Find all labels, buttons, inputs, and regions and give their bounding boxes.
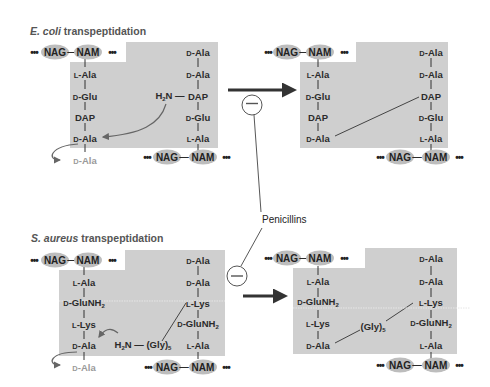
residue-name: -Ala — [191, 133, 209, 144]
dots: ••• — [264, 253, 272, 264]
gly-bridge: (Gly) — [361, 321, 383, 332]
residue-name: -Ala — [79, 133, 97, 144]
residue: D-Ala — [419, 276, 442, 287]
amine-h: H — [115, 339, 122, 350]
residue: L-Ala — [74, 69, 97, 80]
nag-label: NAG — [44, 47, 66, 58]
ecoli-inhibit-circle — [242, 95, 262, 115]
residue: DAP — [75, 112, 95, 123]
residue-name: -Ala — [78, 340, 96, 351]
nag-label: NAG — [389, 152, 411, 163]
nam-label: NAM — [425, 152, 448, 163]
dots: ••• — [222, 152, 230, 163]
residue: D-Ala — [186, 255, 209, 266]
nag-label: NAG — [44, 255, 66, 266]
nam-sugar: NAM — [422, 150, 450, 165]
residue-name: DAP — [421, 91, 441, 102]
residue: DAP — [308, 112, 328, 123]
dots: ••• — [455, 152, 463, 163]
amine-h: H — [155, 90, 162, 101]
residue-name: -Ala — [192, 255, 210, 266]
residue-name: -Ala — [192, 69, 210, 80]
residue-name: -Ala — [192, 47, 210, 58]
residue-name: -Ala — [77, 277, 95, 288]
saureus-after-crosslink-a — [335, 330, 360, 343]
saureus-amine-gly-group: H2N — (Gly)5 — [115, 339, 172, 351]
glycosidic-bond: — — [179, 361, 189, 372]
nag-sugar: NAG — [41, 253, 69, 268]
residue-name: -GluNH — [303, 296, 336, 307]
residue-name: -Lys — [191, 298, 210, 309]
residue-name: -Ala — [192, 277, 210, 288]
residue: D-GluNH2 — [297, 296, 338, 308]
residue: D-Ala — [186, 47, 209, 58]
nag-label: NAG — [156, 362, 178, 373]
residue-name: -Ala — [425, 276, 443, 287]
residue: DAP — [421, 91, 441, 102]
residue-name: -Lys — [424, 297, 443, 308]
residue-sub: 2 — [335, 302, 338, 308]
nag-sugar: NAG — [273, 45, 301, 60]
residue: L-Ala — [420, 340, 443, 351]
nam-label: NAM — [192, 362, 215, 373]
nag-label: NAG — [156, 152, 178, 163]
penicillins-label: Penicillins — [262, 214, 306, 225]
amine-n: N — [125, 339, 132, 350]
dots: ••• — [340, 253, 348, 264]
residue-name: -Glu — [311, 91, 330, 102]
residue: D-Ala — [72, 340, 95, 351]
residue-name: -Ala — [78, 362, 96, 373]
residue: L-Lys — [306, 318, 330, 329]
residue: L-Ala — [73, 277, 96, 288]
residue-sub: 2 — [215, 324, 218, 330]
residue: L-Lys — [419, 297, 443, 308]
nag-label: NAG — [389, 360, 411, 371]
residue-name: -Ala — [312, 340, 330, 351]
residue-name: -Glu — [424, 112, 443, 123]
ecoli-crosslink — [335, 97, 419, 136]
residue-name: -Glu — [78, 91, 97, 102]
dots: ••• — [455, 360, 463, 371]
dots: ••• — [340, 47, 348, 58]
residue: L-Lys — [186, 298, 210, 309]
residue: L-Ala — [187, 340, 210, 351]
residue: D-Ala — [186, 69, 209, 80]
residue: D-Glu — [419, 112, 443, 123]
residue-name: -GluNH — [69, 297, 102, 308]
leaving-residue: D-Ala — [73, 155, 96, 166]
residue-name: -Ala — [425, 69, 443, 80]
residue-name: DAP — [308, 112, 328, 123]
ecoli-amine-group: H2N — — [155, 90, 184, 102]
nam-label: NAM — [192, 152, 215, 163]
penicillin-line-top — [254, 115, 261, 212]
nam-sugar: NAM — [74, 253, 102, 268]
amine-bond: — — [134, 339, 144, 350]
nag-sugar: NAG — [386, 358, 414, 373]
residue-name: -Ala — [79, 155, 97, 166]
penicillin-line-bottom — [241, 228, 262, 266]
residue: D-Ala — [419, 69, 442, 80]
dots: ••• — [144, 362, 152, 373]
dots: ••• — [30, 255, 38, 266]
amine-bond: — — [175, 90, 185, 101]
saureus-after-crosslink-b — [386, 303, 413, 321]
nag-sugar: NAG — [41, 45, 69, 60]
leaving-residue: D-Ala — [72, 362, 95, 373]
residue: DAP — [188, 91, 208, 102]
residue-name: -Ala — [312, 133, 330, 144]
nag-sugar: NAG — [273, 251, 301, 266]
residue-sub: 2 — [101, 303, 104, 309]
residue: L-Ala — [420, 133, 443, 144]
residue-sub: 2 — [448, 323, 451, 329]
gly-bridge: (Gly) — [146, 339, 168, 350]
residue: L-Ala — [187, 133, 210, 144]
nag-sugar: NAG — [386, 150, 414, 165]
residue: L-Lys — [72, 319, 96, 330]
residue-name: -Ala — [424, 340, 442, 351]
residue-name: DAP — [75, 112, 95, 123]
residue: D-GluNH2 — [410, 317, 451, 329]
dots: ••• — [30, 47, 38, 58]
residue-name: -Ala — [78, 69, 96, 80]
gly-sub: 5 — [168, 345, 171, 351]
residue: L-Ala — [307, 69, 330, 80]
